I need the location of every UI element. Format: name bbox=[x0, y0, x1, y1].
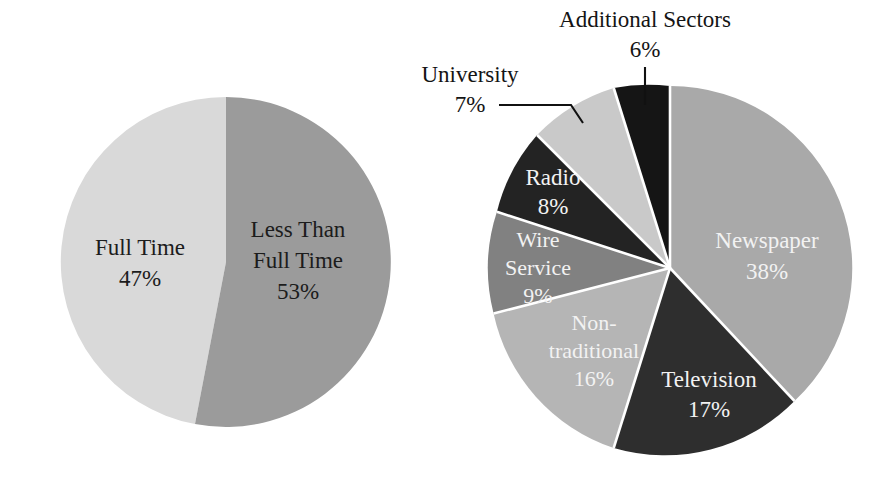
media-sector-pie: Newspaper 38% Television 17% Non- tradit… bbox=[421, 7, 852, 455]
pie-label-full-time-percent: 47% bbox=[119, 266, 161, 291]
pie-callout-university: University 7% bbox=[421, 62, 583, 123]
pie-label-university-percent: 7% bbox=[455, 92, 486, 117]
pie-label-less-than-full-time-line1: Less Than bbox=[251, 217, 346, 242]
pie-label-television-percent: 17% bbox=[688, 397, 730, 422]
pie-label-newspaper-name: Newspaper bbox=[715, 228, 819, 253]
pie-label-wire-service-percent: 9% bbox=[523, 283, 552, 308]
pie-label-nontraditional-percent: 16% bbox=[574, 366, 614, 391]
pie-label-additional-sectors-name: Additional Sectors bbox=[559, 7, 731, 32]
pie-label-additional-sectors-percent: 6% bbox=[630, 37, 661, 62]
pie-label-television-name: Television bbox=[661, 367, 757, 392]
employment-status-pie: Full Time 47% Less Than Full Time 53% bbox=[61, 97, 391, 427]
pie-label-wire-service-line2: Service bbox=[505, 255, 571, 280]
pie-label-less-than-full-time-percent: 53% bbox=[277, 279, 319, 304]
pie-label-university-name: University bbox=[421, 62, 519, 87]
pie-label-full-time-name: Full Time bbox=[95, 235, 185, 260]
pie-slice-full-time[interactable] bbox=[61, 97, 226, 424]
pie-label-radio-percent: 8% bbox=[538, 194, 569, 219]
pie-label-nontraditional-line2: traditional bbox=[549, 338, 639, 363]
pie-label-newspaper-percent: 38% bbox=[746, 259, 788, 284]
pie-label-nontraditional-line1: Non- bbox=[571, 310, 616, 335]
pie-label-radio-name: Radio bbox=[526, 165, 581, 190]
pie-label-less-than-full-time-line2: Full Time bbox=[253, 248, 343, 273]
pie-label-wire-service-line1: Wire bbox=[516, 227, 559, 252]
two-pie-chart-figure: Full Time 47% Less Than Full Time 53% bbox=[0, 0, 895, 481]
pie-charts-canvas: Full Time 47% Less Than Full Time 53% bbox=[0, 0, 895, 481]
